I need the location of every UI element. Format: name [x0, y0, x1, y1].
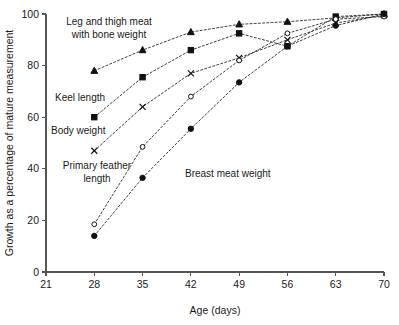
- data-point-filled-circle: [188, 126, 193, 131]
- data-point-filled-circle: [92, 233, 97, 238]
- annotation-keel-length: Keel length: [55, 92, 105, 103]
- data-series-group: [91, 10, 388, 238]
- data-point-open-circle: [92, 222, 97, 227]
- x-axis-ticks: 2128354249566370: [40, 272, 390, 290]
- axes: [46, 14, 384, 272]
- x-tick-label: 35: [137, 278, 149, 290]
- data-point-cross: [140, 104, 146, 110]
- data-point-filled-circle: [333, 23, 338, 28]
- y-tick-label: 80: [27, 59, 39, 71]
- series-line: [94, 14, 384, 236]
- data-point-filled-circle: [140, 175, 145, 180]
- x-tick-label: 70: [378, 278, 390, 290]
- annotation-body-weight: Body weight: [51, 125, 106, 136]
- x-tick-label: 21: [40, 278, 52, 290]
- data-point-filled-square: [140, 75, 145, 80]
- y-tick-label: 60: [27, 111, 39, 123]
- data-point-filled-square: [188, 47, 193, 52]
- y-tick-label: 20: [27, 214, 39, 226]
- data-point-filled-triangle: [91, 67, 98, 73]
- series-annotations: Leg and thigh meatwith bone weightKeel l…: [51, 16, 271, 184]
- growth-line-chart: 020406080100 2128354249566370 Leg and th…: [0, 0, 399, 325]
- y-tick-label: 0: [33, 266, 39, 278]
- chart-container: 020406080100 2128354249566370 Leg and th…: [0, 0, 399, 325]
- data-point-filled-square: [236, 31, 241, 36]
- data-point-open-circle: [188, 94, 193, 99]
- series-line: [94, 17, 384, 225]
- y-axis-ticks: 020406080100: [21, 8, 46, 278]
- data-point-cross: [91, 148, 97, 154]
- x-tick-label: 49: [233, 278, 245, 290]
- y-tick-label: 40: [27, 162, 39, 174]
- y-tick-label: 100: [21, 8, 39, 20]
- data-point-open-circle: [285, 31, 290, 36]
- x-tick-label: 63: [330, 278, 342, 290]
- series-primary-feather-length: [92, 14, 387, 226]
- data-point-filled-circle: [236, 80, 241, 85]
- series-breast-meat-weight: [92, 11, 387, 238]
- annotation-breast-meat: Breast meat weight: [185, 168, 271, 179]
- data-point-filled-circle: [285, 44, 290, 49]
- data-point-open-circle: [333, 17, 338, 22]
- x-tick-label: 56: [282, 278, 294, 290]
- x-tick-label: 28: [88, 278, 100, 290]
- x-tick-label: 42: [185, 278, 197, 290]
- x-axis-title: Age (days): [190, 304, 241, 316]
- data-point-cross: [188, 70, 194, 76]
- data-point-cross: [284, 37, 290, 43]
- y-axis-title: Growth as a percentage of mature measure…: [3, 30, 15, 257]
- data-point-filled-square: [92, 115, 97, 120]
- data-point-filled-circle: [381, 11, 386, 16]
- annotation-leg-and-thigh: Leg and thigh meatwith bone weight: [66, 16, 152, 40]
- data-point-open-circle: [140, 144, 145, 149]
- data-point-open-circle: [237, 58, 242, 63]
